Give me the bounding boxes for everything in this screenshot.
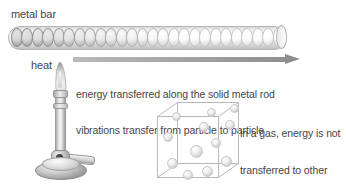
- gas-particle: [207, 108, 216, 117]
- metal-bar-icon: [8, 26, 286, 50]
- metal-bar-end-cap: [276, 25, 287, 49]
- gas-particle: [199, 122, 209, 132]
- gas-caption: in a gas, energy is not transferred to o…: [240, 103, 340, 184]
- arrow-shaft: [73, 57, 286, 62]
- arrow-head: [285, 54, 300, 64]
- gas-particle: [183, 170, 193, 180]
- gas-particle: [163, 132, 173, 142]
- burner-collar-lower: [53, 103, 68, 109]
- gas-particle: [167, 158, 178, 169]
- rod-caption-line-1: energy transferred along the solid metal…: [76, 88, 275, 100]
- heat-transfer-diagram: metal bar heat energy transferred along …: [0, 0, 346, 184]
- metal-bar-label: metal bar: [11, 9, 56, 21]
- gas-particle: [225, 120, 235, 130]
- gas-particle-box-icon: [157, 100, 239, 180]
- burner-collar-upper: [53, 90, 68, 98]
- gas-particle: [221, 156, 232, 167]
- metal-bar-particles: [11, 28, 283, 48]
- gas-caption-line-1: in a gas, energy is not: [240, 127, 340, 139]
- gas-particle: [202, 166, 213, 177]
- bunsen-burner-icon: [33, 62, 97, 180]
- gas-caption-line-2: transferred to other: [240, 164, 340, 176]
- burner-base-top: [42, 157, 80, 171]
- burner-barrel: [55, 90, 66, 153]
- gas-particle: [190, 145, 203, 158]
- gas-particle: [211, 138, 221, 148]
- gas-particle: [172, 112, 181, 121]
- gas-particle: [230, 104, 239, 113]
